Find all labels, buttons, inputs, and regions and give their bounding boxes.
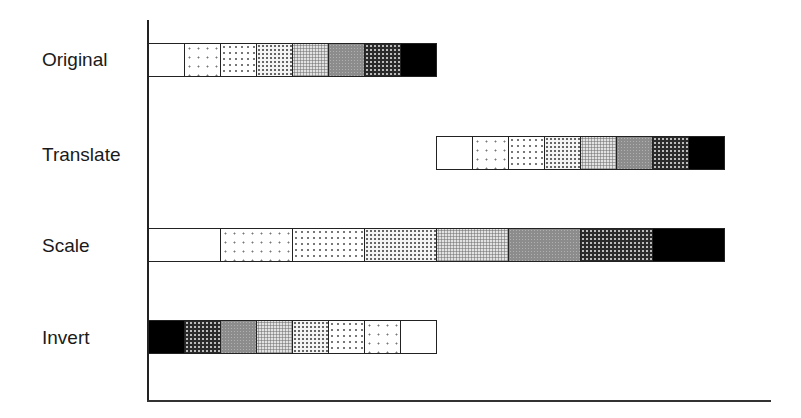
shade-cell: [437, 229, 509, 261]
shade-cell: [473, 137, 509, 169]
shade-cell: [509, 137, 545, 169]
row-label-scale: Scale: [42, 236, 90, 256]
bar-invert: [148, 320, 437, 354]
shade-cell: [329, 321, 365, 353]
shade-cell: [365, 229, 437, 261]
shade-cell: [401, 321, 436, 353]
shade-cell: [581, 137, 617, 169]
bar-scale: [148, 228, 725, 262]
bar-translate: [436, 136, 725, 170]
shade-cell: [149, 321, 185, 353]
x-axis-line: [147, 400, 771, 402]
shade-cell: [221, 229, 293, 261]
shade-cell: [581, 229, 653, 261]
shade-cell: [545, 137, 581, 169]
shade-cell: [401, 44, 436, 76]
shade-cell: [653, 229, 724, 261]
shade-cell: [257, 321, 293, 353]
row-label-invert: Invert: [42, 328, 90, 348]
shade-cell: [329, 44, 365, 76]
shade-cell: [185, 321, 221, 353]
shade-cell: [221, 44, 257, 76]
row-label-translate: Translate: [42, 145, 121, 165]
bar-original: [148, 43, 437, 77]
shade-cell: [365, 44, 401, 76]
shade-cell: [365, 321, 401, 353]
shade-cell: [149, 44, 185, 76]
shade-cell: [221, 321, 257, 353]
shade-cell: [653, 137, 689, 169]
shade-cell: [617, 137, 653, 169]
shade-cell: [293, 229, 365, 261]
shade-cell: [509, 229, 581, 261]
shade-cell: [185, 44, 221, 76]
shade-cell: [293, 321, 329, 353]
row-label-original: Original: [42, 50, 107, 70]
shade-cell: [257, 44, 293, 76]
shade-cell: [689, 137, 724, 169]
shade-cell: [437, 137, 473, 169]
shade-cell: [293, 44, 329, 76]
shade-cell: [149, 229, 221, 261]
